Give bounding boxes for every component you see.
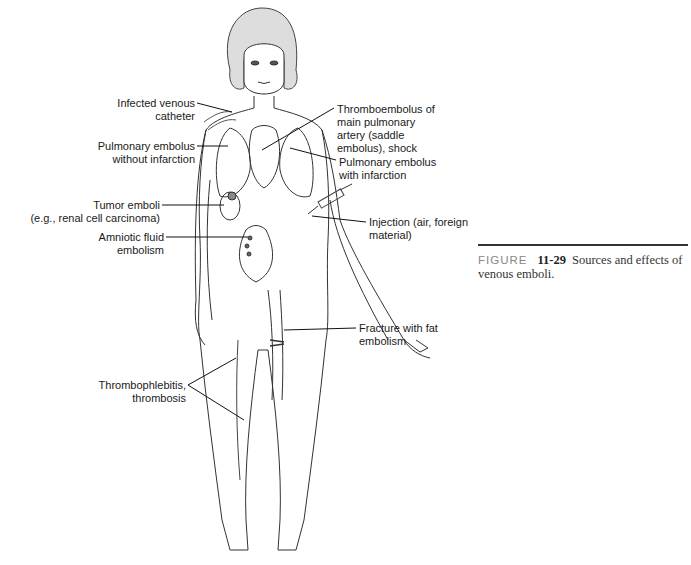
figure-caption: FIGURE11-29Sources and effects of venous… [478,253,690,281]
uterus [239,226,272,283]
label-pe-with-infarction: Pulmonary embolus with infarction [339,156,479,182]
vein-leg [237,340,240,480]
label-line: main pulmonary [337,116,477,129]
caption-rule [478,244,688,246]
label-line: embolus), shock [337,142,477,155]
label-tumor-emboli: Tumor emboli (e.g., renal cell carcinoma… [0,199,160,225]
label-amniotic: Amniotic fluid embolism [40,231,164,257]
label-injection: Injection (air, foreign material) [369,216,509,242]
label-line: embolism [359,335,499,348]
torso-outline [199,96,329,340]
label-line: material) [369,229,509,242]
label-line: Thromboembolus of [337,103,477,116]
legs [200,340,326,550]
label-fracture: Fracture with fat embolism [359,322,499,348]
syringe-icon [308,184,352,214]
label-thrombophlebitis: Thrombophlebitis, thrombosis [60,379,186,405]
label-line: (e.g., renal cell carcinoma) [0,212,160,225]
label-line: Pulmonary embolus [40,140,195,153]
label-line: Fracture with fat [359,322,499,335]
label-line: Injection (air, foreign [369,216,509,229]
label-line: without infarction [40,153,195,166]
lung-left [216,128,250,197]
label-line: thrombosis [60,392,186,405]
label-line: Thrombophlebitis, [60,379,186,392]
label-line: embolism [40,244,164,257]
lung-right [280,128,313,197]
caption-number: 11-29 [537,253,565,267]
heart [249,126,279,189]
face [244,44,284,94]
label-line: Infected venous [80,97,195,110]
label-line: artery (saddle [337,129,477,142]
label-thromboembolus: Thromboembolus of main pulmonary artery … [337,103,477,155]
caption-prefix: FIGURE [478,254,527,266]
label-pe-without-infarction: Pulmonary embolus without infarction [40,140,195,166]
label-line: with infarction [339,169,479,182]
label-line: Pulmonary embolus [339,156,479,169]
label-line: catheter [80,110,195,123]
label-line: Tumor emboli [0,199,160,212]
label-infected-catheter: Infected venous catheter [80,97,195,123]
human-body-illustration [0,0,691,565]
label-line: Amniotic fluid [40,231,164,244]
